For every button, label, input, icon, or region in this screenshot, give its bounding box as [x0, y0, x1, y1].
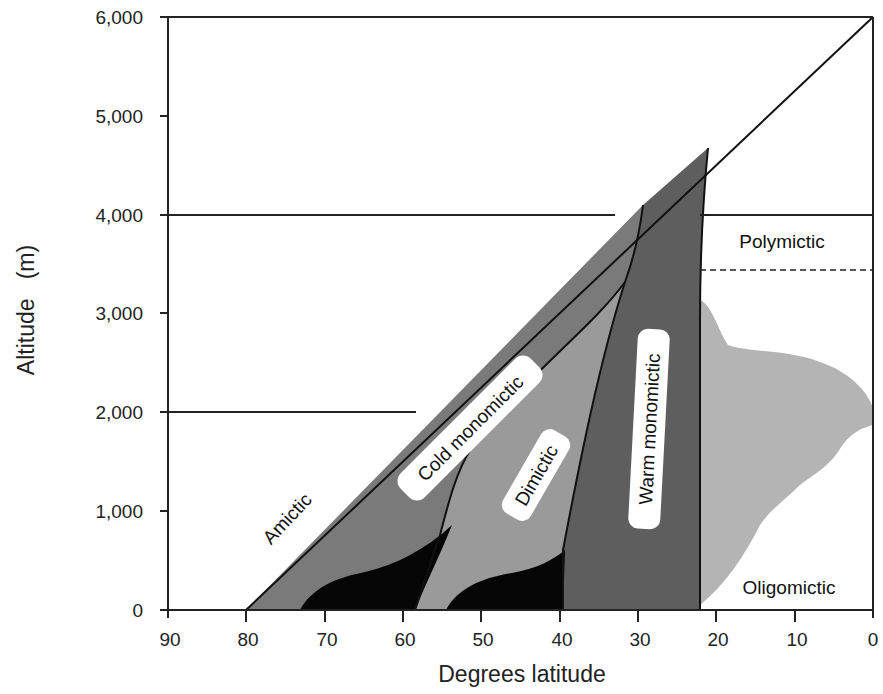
- y-tick-3000: 3,000: [95, 303, 143, 324]
- y-tick-4000: 4,000: [95, 205, 143, 226]
- x-tick-0: 0: [868, 629, 879, 650]
- x-ticks: [246, 610, 795, 622]
- x-tick-50: 50: [472, 629, 493, 650]
- x-tick-30: 30: [629, 629, 650, 650]
- x-tick-10: 10: [786, 629, 807, 650]
- y-tick-labels: 0 1,000 2,000 3,000 4,000 5,000 6,000: [95, 7, 143, 621]
- polymictic-label: Polymictic: [739, 231, 825, 252]
- lake-mixing-diagram: 0 1,000 2,000 3,000 4,000 5,000 6,000 90…: [0, 0, 883, 694]
- amictic-label: Amictic: [259, 489, 316, 548]
- oligomictic-label: Oligomictic: [743, 577, 836, 598]
- y-ticks: [160, 116, 168, 511]
- x-axis-title: Degrees latitude: [438, 661, 606, 687]
- y-tick-0: 0: [132, 600, 143, 621]
- y-tick-5000: 5,000: [95, 106, 143, 127]
- y-tick-6000: 6,000: [95, 7, 143, 28]
- x-tick-70: 70: [316, 629, 337, 650]
- x-tick-labels: 90 80 70 60 50 40 30 20 10 0: [159, 629, 878, 650]
- y-axis-title: Altitude (m): [13, 245, 39, 375]
- y-tick-1000: 1,000: [95, 501, 143, 522]
- x-tick-60: 60: [394, 629, 415, 650]
- y-tick-2000: 2,000: [95, 402, 143, 423]
- x-tick-80: 80: [237, 629, 258, 650]
- oligomictic-region: [700, 300, 873, 605]
- x-tick-90: 90: [159, 629, 180, 650]
- x-tick-40: 40: [551, 629, 572, 650]
- x-tick-20: 20: [707, 629, 728, 650]
